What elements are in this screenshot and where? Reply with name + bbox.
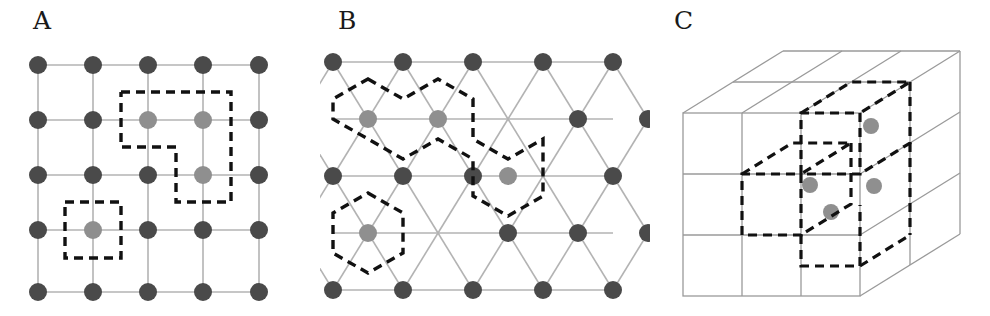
bond-diag xyxy=(578,233,613,290)
panel-b-canvas xyxy=(320,0,650,316)
lattice-node xyxy=(499,224,517,242)
bond-diag xyxy=(578,176,613,233)
marked-lattice-node xyxy=(359,110,377,128)
bond-diag xyxy=(543,62,578,119)
panel-a-canvas xyxy=(0,0,320,316)
lattice-node xyxy=(84,111,102,129)
marked-lattice-node xyxy=(866,178,882,194)
bond-diag xyxy=(578,62,613,119)
lattice-node xyxy=(29,283,47,301)
panel-c-cubic-lattice: C xyxy=(650,0,990,316)
lattice-node xyxy=(84,283,102,301)
bond-diag xyxy=(473,62,508,119)
bond-diag xyxy=(543,233,578,290)
lattice-node xyxy=(250,56,268,74)
bond-diag xyxy=(578,119,613,176)
cube-block-edges xyxy=(683,51,960,296)
lattice-node xyxy=(639,224,650,242)
bond-diag xyxy=(438,176,473,233)
bond-diag xyxy=(403,233,438,290)
cubic-unit-cell-outline-upper xyxy=(801,82,910,174)
marked-lattice-node xyxy=(359,224,377,242)
bond-diag xyxy=(543,119,578,176)
unit-cell-outline-staircase xyxy=(121,92,231,202)
lattice-node xyxy=(29,56,47,74)
panel-a-square-lattice: A xyxy=(0,0,320,316)
marked-lattice-node xyxy=(194,166,212,184)
lattice-node xyxy=(464,281,482,299)
lattice-node xyxy=(29,221,47,239)
bond-diag xyxy=(403,119,438,176)
lattice-node xyxy=(84,56,102,74)
lattice-node xyxy=(139,166,157,184)
bond-diag xyxy=(613,233,648,290)
bond-diag xyxy=(508,119,543,176)
wigner-seitz-supercell-outline xyxy=(333,79,543,216)
unit-cell-top-face xyxy=(742,143,851,174)
lattice-node xyxy=(250,166,268,184)
lattice-node xyxy=(29,166,47,184)
figure-root: A xyxy=(0,0,990,316)
lattice-node xyxy=(324,167,342,185)
marked-lattice-node xyxy=(194,111,212,129)
lattice-node xyxy=(29,111,47,129)
cubic-unit-cell-outline-cluster xyxy=(801,143,910,266)
bond-diag xyxy=(473,176,508,233)
bond-diag xyxy=(333,176,368,233)
lattice-node xyxy=(250,111,268,129)
lattice-node xyxy=(569,110,587,128)
lattice-node xyxy=(139,56,157,74)
lattice-node xyxy=(324,53,342,71)
lattice-node xyxy=(194,56,212,74)
marked-lattice-node xyxy=(84,221,102,239)
marked-lattice-node xyxy=(139,111,157,129)
lattice-node xyxy=(394,281,412,299)
lattice-node xyxy=(569,224,587,242)
lattice-node xyxy=(534,281,552,299)
lattice-node xyxy=(604,53,622,71)
bond-diag xyxy=(403,62,438,119)
lattice-node xyxy=(534,53,552,71)
bond-diag xyxy=(368,233,403,290)
bond-diag xyxy=(508,62,543,119)
bond-diag xyxy=(473,233,508,290)
unit-cell-top-face xyxy=(801,82,910,113)
bond-diag xyxy=(613,62,648,119)
lattice-node xyxy=(194,221,212,239)
lattice-node xyxy=(394,53,412,71)
lattice-node xyxy=(324,281,342,299)
bond-diag xyxy=(403,176,438,233)
bond-diag xyxy=(438,233,473,290)
lattice-node xyxy=(250,221,268,239)
bond-diag xyxy=(438,62,473,119)
unit-cell-front-square xyxy=(742,174,801,235)
lattice-node xyxy=(194,283,212,301)
panel-b-triangular-lattice: B xyxy=(320,0,650,316)
lattice-node xyxy=(139,283,157,301)
cubic-unit-cell-outline-lower xyxy=(742,143,851,235)
cluster-bottom-face xyxy=(801,235,910,266)
lattice-node xyxy=(639,110,650,128)
lattice-node xyxy=(604,167,622,185)
lattice-node xyxy=(250,283,268,301)
lattice-node xyxy=(464,53,482,71)
marked-lattice-node xyxy=(802,177,818,193)
bond-diag xyxy=(613,119,648,176)
lattice-node xyxy=(139,221,157,239)
lattice-node xyxy=(84,166,102,184)
bond-diag xyxy=(508,233,543,290)
marked-lattice-node xyxy=(499,167,517,185)
lattice-node xyxy=(394,167,412,185)
bond-diag xyxy=(613,176,648,233)
lattice-node xyxy=(604,281,622,299)
panel-c-canvas xyxy=(650,0,990,316)
marked-lattice-node xyxy=(863,118,879,134)
marked-lattice-node xyxy=(429,110,447,128)
bond-diag xyxy=(543,176,578,233)
